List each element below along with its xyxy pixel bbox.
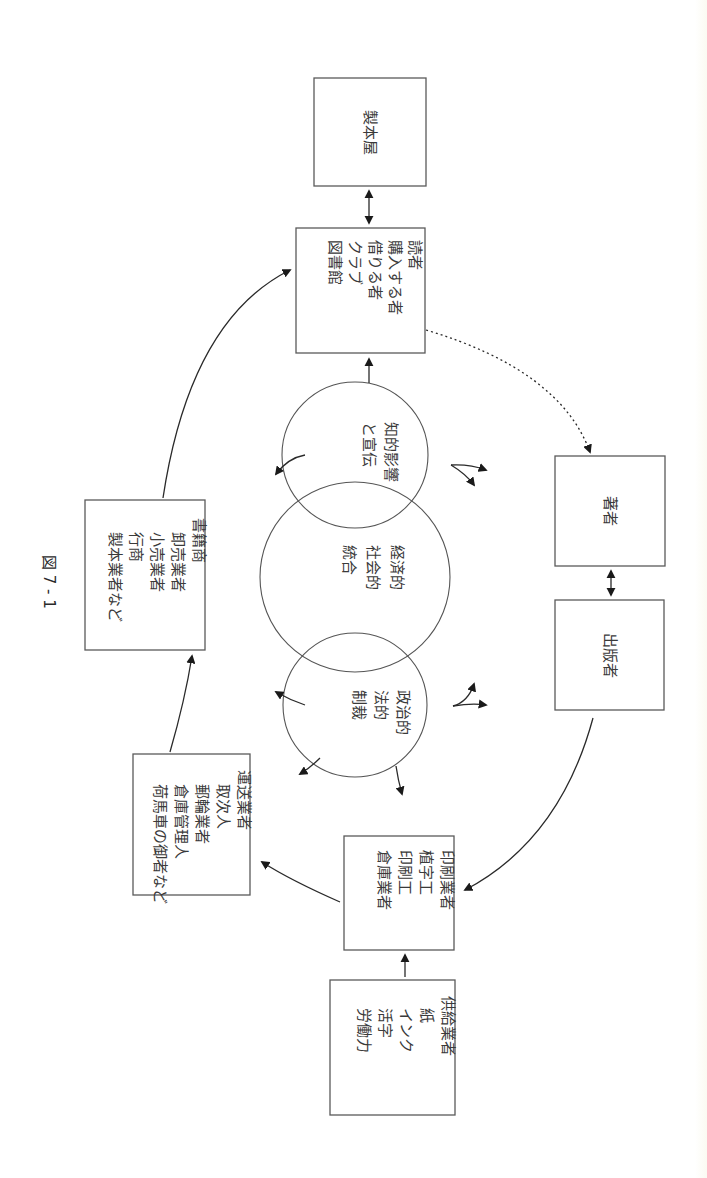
political-right-arrow-1 (453, 684, 474, 706)
intellectual-right-arrow-2 (451, 465, 474, 485)
svg-text:経済的: 経済的 (388, 545, 406, 590)
svg-text:郵輪業者: 郵輪業者 (193, 784, 211, 844)
svg-text:出版者: 出版者 (601, 633, 619, 678)
svg-text:倉庫業者: 倉庫業者 (375, 850, 393, 910)
svg-text:読者: 読者 (406, 240, 424, 270)
publisher-label: 出版者 (601, 633, 619, 678)
economic-social-circle (260, 482, 450, 672)
svg-text:印刷工: 印刷工 (396, 850, 414, 895)
svg-text:取次人: 取次人 (214, 784, 232, 829)
svg-text:小売業者: 小売業者 (148, 532, 166, 592)
publisher-to-printers-arrow (465, 718, 593, 890)
intellectual-influence-label: 知的影響 と宣伝 (360, 422, 400, 482)
svg-text:図 7 - 1: 図 7 - 1 (40, 555, 58, 609)
svg-text:製本業者など: 製本業者など (106, 532, 124, 622)
svg-text:書籍商: 書籍商 (190, 518, 208, 563)
distributors-to-booksellers-arrow (170, 656, 192, 752)
svg-text:紙: 紙 (418, 1008, 436, 1023)
svg-text:著者: 著者 (601, 496, 619, 526)
svg-text:インク: インク (397, 1008, 415, 1053)
readers-to-author-dashed-arrow (426, 330, 590, 452)
svg-text:社会的: 社会的 (364, 545, 382, 590)
svg-text:植字工: 植字工 (417, 850, 435, 895)
communication-circuit-diagram: 製本屋 読者 購入する者 借りる者 クラブ 図書館 著者 出版者 印刷業者 植字… (0, 0, 707, 1178)
political-legal-label: 政治的 法的 制裁 (350, 690, 412, 735)
svg-text:供給業者: 供給業者 (439, 996, 457, 1056)
svg-text:政治的: 政治的 (394, 690, 412, 735)
svg-text:制裁: 制裁 (350, 690, 368, 720)
political-left-arrow-1 (276, 692, 305, 705)
bookbinder-label: 製本屋 (361, 110, 379, 155)
svg-text:行商: 行商 (127, 532, 145, 562)
svg-text:印刷業者: 印刷業者 (438, 850, 456, 910)
svg-text:購入する者: 購入する者 (386, 240, 404, 315)
figure-page: 製本屋 読者 購入する者 借りる者 クラブ 図書館 著者 出版者 印刷業者 植字… (0, 0, 707, 1178)
svg-text:法的: 法的 (372, 690, 390, 720)
intellectual-right-arrow-1 (451, 465, 486, 470)
svg-text:図書館: 図書館 (326, 240, 344, 285)
booksellers-to-readers-arrow (163, 270, 290, 498)
svg-text:統合: 統合 (340, 545, 358, 575)
svg-text:倉庫管理人: 倉庫管理人 (172, 784, 190, 859)
printers-to-distributors-arrow (262, 862, 340, 902)
svg-text:運送業者: 運送業者 (235, 770, 253, 830)
svg-text:借りる者: 借りる者 (366, 240, 384, 300)
svg-text:と宣伝: と宣伝 (360, 422, 378, 467)
svg-text:活字: 活字 (376, 1008, 394, 1038)
political-bottom-arrow (396, 766, 402, 794)
svg-text:クラブ: クラブ (346, 240, 364, 285)
economic-social-label: 経済的 社会的 統合 (340, 545, 406, 590)
svg-text:製本屋: 製本屋 (361, 110, 379, 155)
svg-text:知的影響: 知的影響 (382, 422, 400, 482)
svg-text:卸売業者: 卸売業者 (169, 532, 187, 592)
suppliers-box (330, 980, 455, 1115)
svg-text:荷馬車の御者など: 荷馬車の御者など (151, 784, 169, 904)
svg-text:労働力: 労働力 (355, 1008, 373, 1053)
author-label: 著者 (601, 496, 619, 526)
figure-caption: 図 7 - 1 (40, 555, 58, 609)
intellectual-left-arrow (276, 455, 305, 474)
